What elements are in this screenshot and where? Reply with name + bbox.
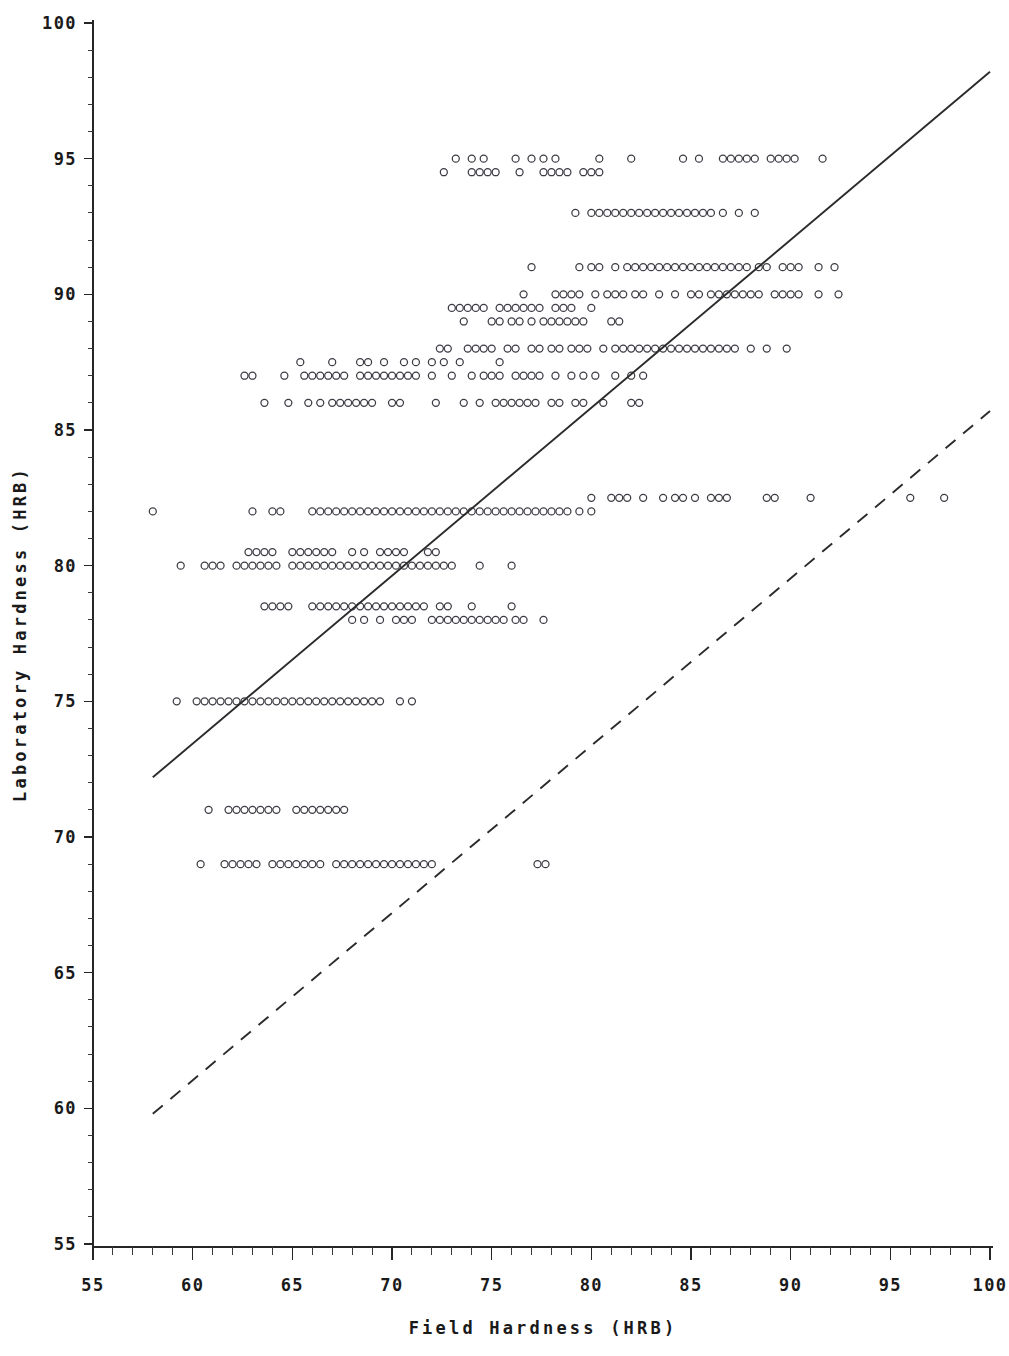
data-point [542, 861, 549, 868]
data-point [385, 549, 392, 556]
data-point [672, 494, 679, 501]
data-point [341, 806, 348, 813]
x-tick-label: 95 [879, 1275, 902, 1295]
data-point [396, 372, 403, 379]
data-point [636, 345, 643, 352]
data-point [361, 399, 368, 406]
data-point [313, 698, 320, 705]
y-tick-label: 95 [54, 149, 77, 169]
data-point [632, 264, 639, 271]
data-point [548, 508, 555, 515]
data-point [516, 399, 523, 406]
data-point [400, 616, 407, 623]
data-point [285, 399, 292, 406]
data-point [596, 169, 603, 176]
data-point [349, 508, 356, 515]
data-point [524, 508, 531, 515]
data-point [361, 549, 368, 556]
data-point [664, 264, 671, 271]
data-point [301, 372, 308, 379]
data-point [560, 291, 567, 298]
x-tick-label: 55 [81, 1275, 104, 1295]
data-point [209, 698, 216, 705]
data-point [508, 508, 515, 515]
data-point [241, 372, 248, 379]
data-point [644, 209, 651, 216]
data-point [428, 359, 435, 366]
data-point [480, 304, 487, 311]
data-point [620, 291, 627, 298]
data-point [552, 372, 559, 379]
x-tick-label: 60 [181, 1275, 204, 1295]
data-point [173, 698, 180, 705]
data-point [512, 345, 519, 352]
data-point [337, 698, 344, 705]
data-point [504, 345, 511, 352]
data-point [656, 264, 663, 271]
data-point [695, 155, 702, 162]
data-point [588, 508, 595, 515]
data-point [534, 861, 541, 868]
data-point [432, 562, 439, 569]
data-point [329, 359, 336, 366]
data-point [404, 508, 411, 515]
data-point [616, 494, 623, 501]
data-point [580, 169, 587, 176]
reference-line [153, 411, 990, 1114]
data-point [596, 264, 603, 271]
data-point [408, 562, 415, 569]
data-point [676, 345, 683, 352]
data-point [337, 562, 344, 569]
data-point [317, 806, 324, 813]
data-point [608, 318, 615, 325]
data-point [488, 345, 495, 352]
data-point [644, 345, 651, 352]
data-point [357, 359, 364, 366]
data-point [460, 616, 467, 623]
x-axis-ticks [93, 1247, 990, 1260]
data-point [229, 861, 236, 868]
y-tick-label: 90 [54, 284, 77, 304]
data-point [608, 494, 615, 501]
data-point [321, 698, 328, 705]
data-point [568, 345, 575, 352]
data-point [779, 264, 786, 271]
data-point [432, 399, 439, 406]
data-point [588, 304, 595, 311]
data-point [707, 494, 714, 501]
data-point [269, 508, 276, 515]
data-point [349, 549, 356, 556]
data-point [373, 603, 380, 610]
data-point [775, 155, 782, 162]
data-point [480, 372, 487, 379]
data-point [249, 372, 256, 379]
data-point [317, 399, 324, 406]
data-point [540, 508, 547, 515]
data-point [233, 806, 240, 813]
data-point [428, 508, 435, 515]
data-point [552, 291, 559, 298]
data-point [727, 155, 734, 162]
data-point [496, 372, 503, 379]
data-point [297, 359, 304, 366]
data-point [333, 603, 340, 610]
data-point [739, 291, 746, 298]
data-point [412, 372, 419, 379]
data-point [269, 549, 276, 556]
data-point [237, 861, 244, 868]
data-point [680, 264, 687, 271]
data-point [365, 508, 372, 515]
data-point [735, 209, 742, 216]
data-point [688, 291, 695, 298]
data-point [361, 562, 368, 569]
data-point [365, 372, 372, 379]
data-point [628, 345, 635, 352]
data-point [640, 291, 647, 298]
data-point [369, 698, 376, 705]
fit-lines-group [153, 72, 990, 1114]
x-axis-tick-labels: 556065707580859095100 [81, 1275, 1007, 1295]
data-point [468, 155, 475, 162]
data-point [480, 155, 487, 162]
data-point [699, 209, 706, 216]
data-point [907, 494, 914, 501]
